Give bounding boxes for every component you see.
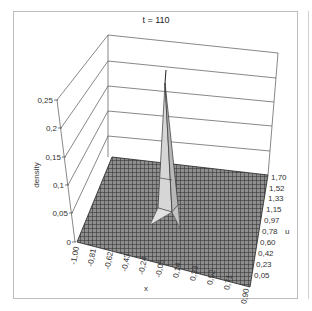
svg-text:0,42: 0,42 bbox=[258, 249, 274, 258]
svg-text:0,71: 0,71 bbox=[222, 273, 234, 290]
svg-text:0,90: 0,90 bbox=[239, 287, 251, 304]
svg-text:0,15: 0,15 bbox=[45, 153, 61, 162]
surface-plot: 0,25 0,2 0,15 0,1 0,05 0 density -1,00 -… bbox=[0, 0, 312, 311]
svg-text:0,14: 0,14 bbox=[171, 261, 183, 278]
z-axis-label: density bbox=[32, 162, 41, 187]
svg-text:-0,05: -0,05 bbox=[154, 258, 166, 278]
z-axis bbox=[54, 100, 76, 242]
svg-text:-0,62: -0,62 bbox=[103, 250, 115, 270]
svg-text:0,60: 0,60 bbox=[260, 238, 276, 247]
svg-text:0,05: 0,05 bbox=[254, 271, 270, 280]
svg-text:0,33: 0,33 bbox=[188, 264, 200, 281]
svg-text:0,78: 0,78 bbox=[262, 227, 278, 236]
svg-text:1,33: 1,33 bbox=[268, 194, 284, 203]
svg-text:-1,00: -1,00 bbox=[69, 245, 81, 265]
z-tick-labels: 0,25 0,2 0,15 0,1 0,05 0 bbox=[37, 96, 71, 247]
svg-text:0,2: 0,2 bbox=[46, 124, 58, 133]
svg-text:0: 0 bbox=[67, 238, 72, 247]
svg-text:0,1: 0,1 bbox=[53, 181, 65, 190]
back-wall bbox=[108, 35, 278, 175]
svg-text:0,23: 0,23 bbox=[256, 260, 272, 269]
svg-text:0,52: 0,52 bbox=[205, 268, 217, 285]
svg-text:-0,43: -0,43 bbox=[120, 252, 132, 272]
svg-text:1,70: 1,70 bbox=[271, 173, 287, 182]
svg-text:1,15: 1,15 bbox=[266, 205, 282, 214]
svg-text:0,05: 0,05 bbox=[52, 209, 68, 218]
u-axis-label: u bbox=[285, 227, 289, 236]
svg-text:1,52: 1,52 bbox=[269, 184, 285, 193]
svg-text:-0,24: -0,24 bbox=[137, 255, 149, 275]
x-axis-label: x bbox=[144, 284, 148, 293]
svg-text:0,25: 0,25 bbox=[37, 96, 53, 105]
svg-text:0,97: 0,97 bbox=[264, 216, 280, 225]
svg-text:-0,81: -0,81 bbox=[86, 247, 98, 267]
